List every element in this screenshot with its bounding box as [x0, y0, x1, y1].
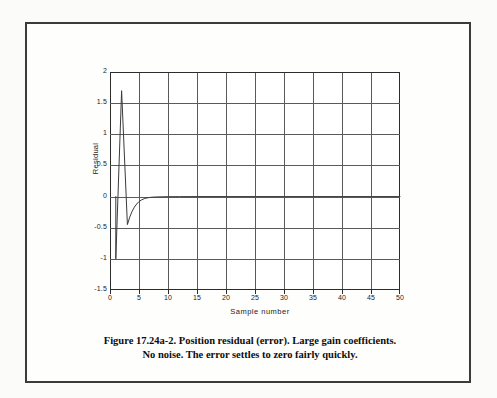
x-tick-label: 5: [127, 294, 151, 301]
x-tick-mark: [284, 290, 285, 294]
x-tick-mark: [255, 290, 256, 294]
x-tick-mark: [110, 290, 111, 294]
chart-area: Residual 21.510.50-0.5-1-1.5 05101520253…: [27, 24, 473, 324]
y-tick-label: 1.5: [81, 98, 107, 105]
x-axis-title: Sample number: [110, 307, 410, 316]
x-tick-mark: [342, 290, 343, 294]
x-tick-label: 45: [359, 294, 383, 301]
x-tick-label: 35: [301, 294, 325, 301]
x-tick-mark: [371, 290, 372, 294]
x-tick-mark: [168, 290, 169, 294]
y-tick-label: 0: [81, 192, 107, 199]
x-tick-label: 10: [156, 294, 180, 301]
figure-page: Residual 21.510.50-0.5-1-1.5 05101520253…: [0, 0, 497, 398]
x-tick-mark: [399, 290, 400, 294]
x-tick-label: 15: [185, 294, 209, 301]
figure-caption: Figure 17.24a-2. Position residual (erro…: [39, 334, 461, 361]
x-tick-label: 0: [98, 294, 122, 301]
x-axis-tick-labels: 05101520253035404550: [110, 294, 401, 308]
x-tick-mark: [139, 290, 140, 294]
residual-series-line: [110, 72, 400, 290]
x-tick-mark: [197, 290, 198, 294]
y-tick-label: -1.5: [81, 285, 107, 292]
y-tick-label: 2: [81, 67, 107, 74]
plot-canvas: [110, 72, 400, 290]
x-tick-label: 40: [330, 294, 354, 301]
x-tick-label: 20: [214, 294, 238, 301]
x-tick-label: 25: [243, 294, 267, 301]
x-tick-mark: [313, 290, 314, 294]
y-tick-label: -0.5: [81, 223, 107, 230]
y-tick-label: 1: [81, 129, 107, 136]
figure-border: Residual 21.510.50-0.5-1-1.5 05101520253…: [25, 22, 471, 383]
y-tick-label: -1: [81, 254, 107, 261]
caption-line-2: No noise. The error settles to zero fair…: [39, 348, 461, 362]
y-tick-label: 0.5: [81, 160, 107, 167]
x-tick-mark: [226, 290, 227, 294]
caption-line-1: Figure 17.24a-2. Position residual (erro…: [39, 334, 461, 348]
x-tick-label: 50: [388, 294, 412, 301]
y-axis-tick-labels: 21.510.50-0.5-1-1.5: [79, 72, 107, 290]
x-tick-label: 30: [272, 294, 296, 301]
